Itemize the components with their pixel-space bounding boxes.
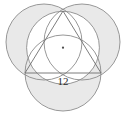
geometry-figure: 12: [0, 0, 126, 121]
side-length-label: 12: [58, 75, 69, 87]
center-dot-icon: [62, 47, 64, 49]
figure-canvas: 12: [0, 0, 126, 121]
